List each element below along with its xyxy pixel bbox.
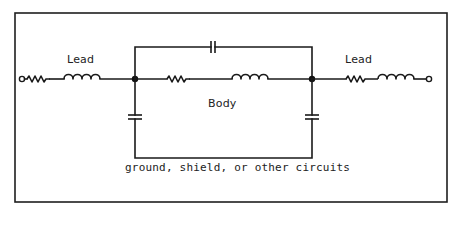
wire	[135, 119, 312, 158]
wire	[135, 47, 211, 79]
ground-label: ground, shield, or other circuits	[125, 161, 350, 174]
right-lead-label: Lead	[345, 53, 372, 66]
left-lead-inductor-icon	[64, 75, 100, 80]
body-label: Body	[208, 97, 237, 110]
right-terminal-icon	[426, 76, 431, 81]
right-lead-resistor-icon	[346, 76, 378, 82]
body-inductor-icon	[232, 75, 268, 80]
left-lead-label: Lead	[67, 53, 94, 66]
body-resistor-icon	[167, 76, 190, 82]
right-lead-inductor-icon	[378, 75, 414, 80]
left-lead-resistor-icon	[27, 76, 50, 82]
